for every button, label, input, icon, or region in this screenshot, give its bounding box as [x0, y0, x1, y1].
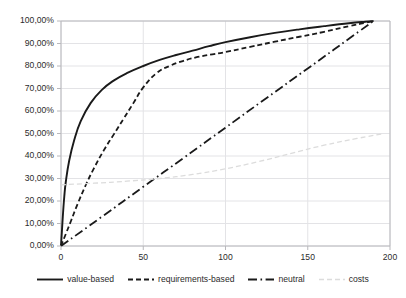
legend-swatch-costs-icon	[319, 275, 345, 284]
y-axis-tick-label: 100,00%	[0, 16, 54, 25]
legend-item-requirements-based[interactable]: requirements-based	[128, 275, 234, 284]
legend-label: neutral	[278, 275, 304, 284]
y-axis-tick-label: 30,00%	[0, 174, 54, 183]
y-axis-tick-label: 0,00%	[0, 241, 54, 250]
y-axis-tick-label: 40,00%	[0, 151, 54, 160]
x-axis-tick-label: 0	[41, 253, 81, 262]
legend-label: requirements-based	[158, 275, 234, 284]
x-axis-tick-label: 50	[123, 253, 163, 262]
legend-item-neutral[interactable]: neutral	[248, 275, 304, 284]
y-axis-tick-label: 10,00%	[0, 219, 54, 228]
legend-swatch-requirements-based-icon	[128, 275, 154, 284]
x-axis-tick-label: 200	[370, 253, 406, 262]
legend-label: value-based	[67, 275, 114, 284]
chart-legend: value-basedrequirements-basedneutralcost…	[0, 268, 406, 290]
chart-container: 0,00%10,00%20,00%30,00%40,00%50,00%60,00…	[0, 0, 406, 298]
legend-label: costs	[349, 275, 369, 284]
y-axis-tick-label: 60,00%	[0, 106, 54, 115]
legend-swatch-neutral-icon	[248, 275, 274, 284]
y-axis-tick-label: 20,00%	[0, 196, 54, 205]
legend-swatch-value-based-icon	[37, 275, 63, 284]
legend-item-costs[interactable]: costs	[319, 275, 369, 284]
x-axis-tick-label: 150	[288, 253, 328, 262]
legend-item-value-based[interactable]: value-based	[37, 275, 114, 284]
y-axis-tick-label: 80,00%	[0, 61, 54, 70]
y-axis-tick-label: 50,00%	[0, 129, 54, 138]
y-axis-tick-label: 70,00%	[0, 84, 54, 93]
x-axis-tick-label: 100	[206, 253, 246, 262]
y-axis-tick-label: 90,00%	[0, 39, 54, 48]
